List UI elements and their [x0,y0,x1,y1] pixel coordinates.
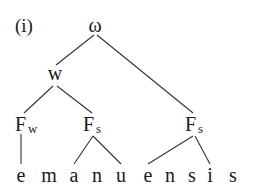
segment: m [41,164,57,186]
foot-node-fw: F w [15,113,38,136]
root-node-omega: ω [88,14,101,36]
segment: n [165,164,175,186]
segment: s [188,164,196,186]
segment: n [92,164,102,186]
prosodic-tree-diagram: (i) ω w F w F s F s e m a n u e n s i s [0,0,260,187]
foot-node-fs-mid: F s [83,113,101,136]
link-fs-mid-to-u [93,136,121,164]
segment: a [70,164,79,186]
link-fs-right-to-i [195,136,210,164]
segment: e [144,164,153,186]
foot-label: F [83,113,94,135]
foot-node-fs-right: F s [185,113,203,136]
link-fs-mid-to-a [74,136,93,164]
branch-root-to-w [56,35,94,65]
segment: u [116,164,126,186]
foot-subscript: s [96,121,101,136]
segment: i [207,164,213,186]
weak-node-w: w [48,62,63,84]
segment: e [17,164,26,186]
foot-label: F [15,113,26,135]
link-fs-right-to-e [148,136,193,164]
example-label: (i) [15,15,33,37]
branch-w-to-fw [24,86,53,113]
foot-label: F [185,113,196,135]
foot-subscript: s [198,121,203,136]
branch-w-to-fs-mid [57,86,92,113]
branch-root-to-fs-right [97,35,193,113]
segment-row: e m a n u e n s i s [17,164,238,186]
foot-subscript: w [28,121,38,136]
segment: s [229,164,237,186]
